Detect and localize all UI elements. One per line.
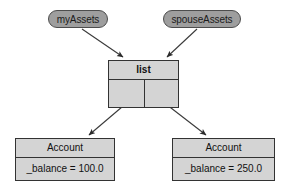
object-title-list: list: [109, 61, 178, 80]
list-slot-1[interactable]: [144, 80, 179, 108]
list-slot-0[interactable]: [109, 80, 144, 108]
uml-object-diagram: myAssets spouseAssets list Account _bala…: [0, 0, 283, 193]
variable-tag-spouseassets[interactable]: spouseAssets: [163, 10, 241, 28]
object-slots-list: [109, 80, 178, 108]
object-field-account-right-balance: _balance = 250.0: [173, 158, 274, 181]
object-title-account-left: Account: [16, 139, 114, 158]
object-box-account-right[interactable]: Account _balance = 250.0: [172, 138, 275, 181]
variable-tag-myassets[interactable]: myAssets: [48, 10, 108, 28]
edge-myassets-to-list: [82, 29, 123, 57]
edge-spouseassets-to-list: [167, 29, 197, 57]
object-field-account-left-balance: _balance = 100.0: [16, 158, 114, 181]
object-box-account-left[interactable]: Account _balance = 100.0: [15, 138, 115, 181]
object-box-list[interactable]: list: [108, 60, 179, 108]
object-title-account-right: Account: [173, 139, 274, 158]
